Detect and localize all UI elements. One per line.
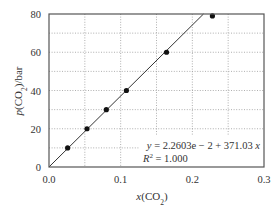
data-point xyxy=(84,126,89,131)
y-tick-label: 20 xyxy=(31,124,42,135)
x-tick-label: 0.1 xyxy=(114,174,127,185)
y-tick-label: 80 xyxy=(31,9,42,20)
data-point xyxy=(104,107,109,112)
chart: y = 2.2603e − 2 + 371.03 x R2 = 1.000 0.… xyxy=(0,0,280,214)
equation-text: y = 2.2603e − 2 + 371.03 x xyxy=(146,140,260,151)
y-axis-ticks: 020406080 xyxy=(31,9,42,173)
y-tick-label: 40 xyxy=(31,86,42,97)
x-tick-label: 0.2 xyxy=(186,174,199,185)
x-axis-ticks: 0.00.10.20.3 xyxy=(42,174,270,185)
fit-equation: y = 2.2603e − 2 + 371.03 x R2 = 1.000 xyxy=(140,136,263,166)
x-tick-label: 0.0 xyxy=(42,174,55,185)
r-squared-text: R2 = 1.000 xyxy=(142,152,188,164)
x-axis-label: x(CO2) xyxy=(135,190,168,207)
data-point xyxy=(164,50,169,55)
data-point xyxy=(65,145,70,150)
data-point xyxy=(124,88,129,93)
y-tick-label: 60 xyxy=(31,47,42,58)
x-tick-label: 0.3 xyxy=(257,174,270,185)
y-tick-label: 0 xyxy=(36,162,41,173)
y-axis-label: p(CO2)/bar xyxy=(12,66,29,116)
